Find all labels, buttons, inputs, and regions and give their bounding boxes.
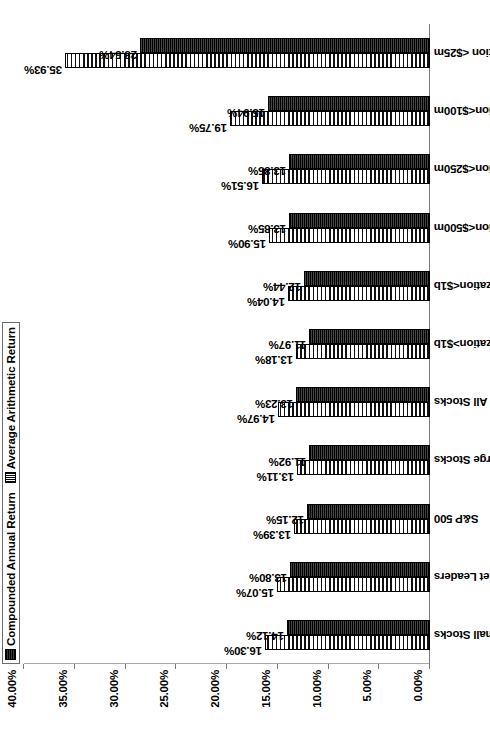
axis-tick-label: 15.00% xyxy=(260,670,272,716)
axis-tick xyxy=(125,664,126,669)
bar-compounded[interactable]: 15.94% xyxy=(268,96,430,111)
bar-group: 35.93%28.54% xyxy=(24,24,430,82)
category-label-text: $100m<Capitalization<$250m xyxy=(434,163,490,175)
category-label: All Stocks xyxy=(432,373,490,431)
bar-arithmetic[interactable]: 16.30% xyxy=(265,635,430,650)
bar-group: 13.11%11.92% xyxy=(24,431,430,489)
bar-compounded[interactable]: 14.12% xyxy=(287,620,430,635)
axis-tick-label: 35.00% xyxy=(57,670,69,716)
bar-value-label: 15.07% xyxy=(236,587,278,599)
axis-tick xyxy=(74,664,75,669)
plot-area: 0.00%5.00%10.00%15.00%20.00%25.00%30.00%… xyxy=(24,24,430,664)
category-label-text: Capitalization <$25m xyxy=(434,47,490,59)
bar-group: 13.39%12.15% xyxy=(24,489,430,547)
legend-label-compounded: Compounded Annual Return xyxy=(5,492,17,646)
bar-group: 13.18%11.97% xyxy=(24,315,430,373)
bar-value-label: 13.85% xyxy=(249,223,291,235)
axis-tick xyxy=(23,664,24,669)
legend-entry-compounded: Compounded Annual Return xyxy=(5,492,17,660)
category-label: $100m<Capitalization<$250m xyxy=(432,140,490,198)
bar-value-label: 13.80% xyxy=(249,572,291,584)
axis-tick xyxy=(226,664,227,669)
axis-tick xyxy=(378,664,379,669)
category-label: Market Leaders xyxy=(432,548,490,606)
category-label-text: Large Stocks xyxy=(434,454,490,466)
bar-arithmetic[interactable]: 13.18% xyxy=(296,344,430,359)
bar-group: 16.30%14.12% xyxy=(24,606,430,664)
bar-value-label: 13.11% xyxy=(257,471,298,483)
bar-compounded[interactable]: 12.15% xyxy=(307,504,430,519)
bar-compounded[interactable]: 13.85% xyxy=(289,154,430,169)
category-label-text: Capitalization>$1b xyxy=(434,338,490,350)
bar-compounded[interactable]: 28.54% xyxy=(140,38,430,53)
bar-value-label: 13.23% xyxy=(255,398,297,410)
bar-compounded[interactable]: 11.97% xyxy=(309,329,430,344)
category-label: Capitalization <$25m xyxy=(432,24,490,82)
bar-compounded[interactable]: 13.85% xyxy=(289,213,430,228)
category-label-text: Market Leaders xyxy=(434,571,490,583)
bar-value-label: 16.51% xyxy=(222,180,264,192)
axis-tick-label: 20.00% xyxy=(209,670,221,716)
bar-arithmetic[interactable]: 13.39% xyxy=(294,519,430,534)
legend-swatch-hatch-icon xyxy=(5,472,16,483)
category-label: $500m<Capitalization<$1b xyxy=(432,257,490,315)
category-label-text: $500m<Capitalization<$1b xyxy=(434,280,490,292)
bar-group: 14.97%13.23% xyxy=(24,373,430,431)
category-label: $25m<Capitalization<$100m xyxy=(432,82,490,140)
legend-label-arithmetic: Average Arithmetic Return xyxy=(5,327,17,469)
bar-group: 15.07%13.80% xyxy=(24,548,430,606)
bar-group: 15.90%13.85% xyxy=(24,199,430,257)
bar-value-label: 12.44% xyxy=(263,281,305,293)
bar-group: 14.04%12.44% xyxy=(24,257,430,315)
bar-group: 19.75%15.94% xyxy=(24,82,430,140)
axis-tick xyxy=(328,664,329,669)
category-label-text: $250m<Capitalization<$500m xyxy=(434,222,490,234)
legend-swatch-dark-icon xyxy=(5,649,16,660)
chart-legend: Compounded Annual Return Average Arithme… xyxy=(2,322,20,664)
bar-group: 16.51%13.85% xyxy=(24,140,430,198)
legend-entry-arithmetic: Average Arithmetic Return xyxy=(5,327,17,483)
category-label-text: S&P 500 xyxy=(434,513,478,525)
chart-page: Compounded Annual Return Average Arithme… xyxy=(0,0,490,742)
axis-tick-label: 40.00% xyxy=(6,670,18,716)
bar-compounded[interactable]: 11.92% xyxy=(309,445,430,460)
bar-compounded[interactable]: 13.80% xyxy=(290,562,430,577)
axis-tick-label: 5.00% xyxy=(361,670,373,716)
bar-arithmetic[interactable]: 13.11% xyxy=(297,460,430,475)
bar-value-label: 15.94% xyxy=(227,107,269,119)
category-label: S&P 500 xyxy=(432,489,490,547)
axis-tick xyxy=(277,664,278,669)
bar-value-label: 14.97% xyxy=(237,413,279,425)
bar-arithmetic[interactable]: 14.97% xyxy=(278,402,430,417)
category-label-text: Small Stocks xyxy=(434,629,490,641)
bar-value-label: 11.92% xyxy=(269,456,310,468)
bar-compounded[interactable]: 12.44% xyxy=(304,271,430,286)
bar-groups: 16.30%14.12%15.07%13.80%13.39%12.15%13.1… xyxy=(24,24,430,664)
axis-tick xyxy=(175,664,176,669)
bar-value-label: 15.90% xyxy=(228,238,270,250)
bar-value-label: 14.04% xyxy=(247,296,289,308)
bar-arithmetic[interactable]: 14.04% xyxy=(288,286,431,301)
category-label-text: $25m<Capitalization<$100m xyxy=(434,105,490,117)
bar-value-label: 12.15% xyxy=(266,514,308,526)
category-label: $250m<Capitalization<$500m xyxy=(432,199,490,257)
category-label: Capitalization>$1b xyxy=(432,315,490,373)
bar-value-label: 28.54% xyxy=(100,49,142,61)
axis-tick-label: 30.00% xyxy=(108,670,120,716)
category-label: Large Stocks xyxy=(432,431,490,489)
bar-value-label: 13.39% xyxy=(253,529,295,541)
bar-compounded[interactable]: 13.23% xyxy=(296,387,430,402)
bar-value-label: 19.75% xyxy=(189,122,231,134)
category-labels: Small StocksMarket LeadersS&P 500Large S… xyxy=(432,24,490,664)
bar-arithmetic[interactable]: 15.90% xyxy=(269,228,430,243)
axis-tick xyxy=(429,664,430,669)
axis-tick-label: 0.00% xyxy=(412,670,424,716)
category-label: Small Stocks xyxy=(432,606,490,664)
axis-tick-label: 10.00% xyxy=(311,670,323,716)
bar-arithmetic[interactable]: 15.07% xyxy=(277,577,430,592)
rotated-chart-frame: Compounded Annual Return Average Arithme… xyxy=(0,0,490,742)
bar-value-label: 35.93% xyxy=(25,64,67,76)
bar-value-label: 16.30% xyxy=(224,645,266,657)
bar-value-label: 13.85% xyxy=(249,165,291,177)
bar-value-label: 14.12% xyxy=(246,630,288,642)
